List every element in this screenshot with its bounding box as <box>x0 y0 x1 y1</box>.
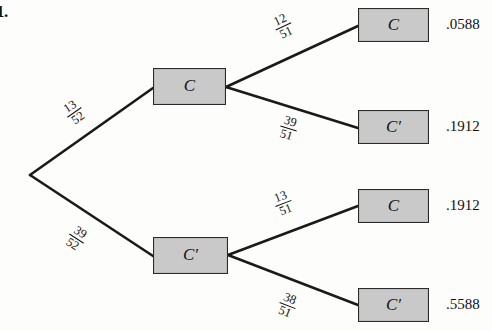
leaf-cc-prime: C′ <box>358 110 429 144</box>
branch-root-c-line <box>30 88 153 175</box>
probability-tree-diagram: 1. CC′ C.0588C′.1912C.1912C′.5588 135239… <box>0 0 492 331</box>
node-c-prime: C′ <box>153 237 228 274</box>
leaf-c-prime-c-prime-probability: .5588 <box>446 296 480 313</box>
leaf-cc-label: C <box>388 16 399 33</box>
node-c-prime-label: C′ <box>183 246 198 263</box>
node-c-label: C <box>184 77 195 94</box>
leaf-c-prime-c-prime: C′ <box>358 288 429 322</box>
node-c: C <box>153 68 226 105</box>
leaf-cc-prime-label: C′ <box>386 118 401 135</box>
leaf-cc-prime-probability: .1912 <box>446 118 480 135</box>
leaf-cc: C <box>358 8 429 42</box>
branch-root-c-prime-line <box>30 175 153 256</box>
leaf-cc-probability: .0588 <box>446 16 480 33</box>
leaf-c-prime-c-prime-label: C′ <box>386 296 401 313</box>
leaf-c-prime-c-label: C <box>388 197 399 214</box>
tree-branch-lines <box>0 0 492 331</box>
leaf-c-prime-c: C <box>358 189 429 223</box>
leaf-c-prime-c-probability: .1912 <box>446 197 480 214</box>
